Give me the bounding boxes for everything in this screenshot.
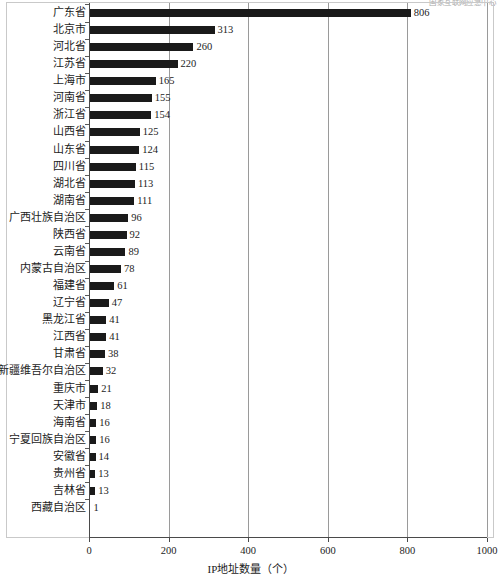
x-tick-label-200: 200	[144, 545, 194, 556]
x-axis-ticks-layer: 02004006008001000	[0, 0, 502, 579]
x-tick-0	[89, 538, 90, 542]
x-tick-600	[328, 538, 329, 542]
x-tick-label-400: 400	[223, 545, 273, 556]
x-tick-200	[169, 538, 170, 542]
x-tick-label-600: 600	[303, 545, 353, 556]
x-tick-800	[407, 538, 408, 542]
x-tick-label-800: 800	[382, 545, 432, 556]
x-tick-400	[248, 538, 249, 542]
x-tick-1000	[487, 538, 488, 542]
x-axis-title: IP地址数量（个）	[0, 560, 502, 576]
x-tick-label-1000: 1000	[462, 545, 502, 556]
x-tick-label-0: 0	[64, 545, 114, 556]
ip-address-count-bar-chart: 国家互联网应急中心 806313260220165155154125124115…	[0, 0, 502, 579]
